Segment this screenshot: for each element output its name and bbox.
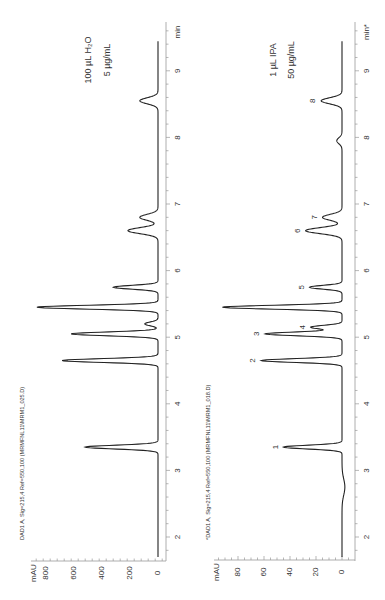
intensity-tick-label: 800 [41,566,50,580]
peak-label: 3 [252,331,261,336]
intensity-tick-label: 200 [125,566,134,580]
time-tick-label: 7 [173,201,182,206]
time-tick-label: 9 [362,68,371,73]
time-tick-label: 3 [362,468,371,473]
chromatogram-figure: 23456789min0200400600800mAUDAD1 A, Sig=2… [0,0,385,600]
chromatogram-top: 23456789min0200400600800mAUDAD1 A, Sig=2… [19,22,182,582]
chromatogram-trace [37,41,158,557]
time-tick-label: 6 [362,268,371,273]
time-tick-label: 2 [173,534,182,539]
time-tick-label: 2 [362,534,371,539]
intensity-tick-label: 0 [153,570,162,575]
intensity-tick-label: 80 [233,567,242,576]
peak-label: 5 [297,284,306,289]
sample-label: 100 µL H₂O [83,37,93,84]
time-tick-label: 7 [362,201,371,206]
peak-label: 4 [298,324,307,329]
signal-label: *DAD1 A, Sig=215,4 Ref=550,100 (MRMFNL11… [205,385,211,540]
time-axis-unit: min [173,26,182,39]
time-tick-label: 5 [362,334,371,339]
intensity-tick-label: 60 [259,567,268,576]
peak-label: 7 [310,215,319,220]
time-tick-label: 8 [362,135,371,140]
intensity-tick-label: 0 [337,569,346,574]
peak-label: 1 [271,444,280,449]
intensity-axis-unit: mAU [29,564,38,582]
time-tick-label: 6 [173,268,182,273]
signal-label: DAD1 A, Sig=215,4 Ref=550,100 (MRMFNL11\… [19,387,25,540]
time-tick-label: 5 [173,334,182,339]
time-axis-unit: min* [362,24,371,40]
time-tick-label: 4 [173,401,182,406]
chromatogram-trace [222,41,344,557]
peak-label: 2 [249,358,258,363]
sample-label: 50 µg/mL [286,41,296,79]
peak-label: 8 [308,98,317,103]
time-tick-label: 8 [173,135,182,140]
intensity-tick-label: 40 [285,567,294,576]
time-tick-label: 4 [362,401,371,406]
chromatogram-bottom: 23456789min*020406080mAU*DAD1 A, Sig=215… [205,22,371,581]
sample-label: 1 µL IPA [268,43,278,77]
sample-label: 5 µg/mL [102,44,112,77]
intensity-axis-unit: mAU [212,563,221,581]
intensity-tick-label: 20 [311,567,320,576]
intensity-tick-label: 600 [69,566,78,580]
time-tick-label: 3 [173,468,182,473]
peak-label: 6 [293,228,302,233]
time-tick-label: 9 [173,68,182,73]
intensity-tick-label: 400 [97,566,106,580]
